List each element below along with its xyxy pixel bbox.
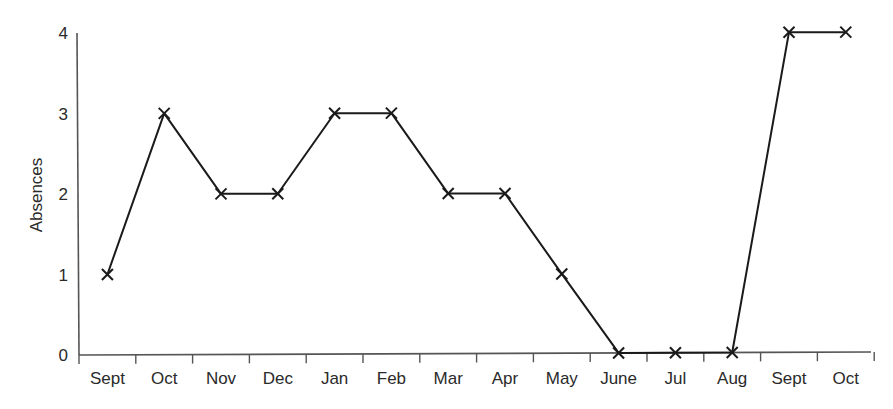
- x-tick-label: June: [600, 369, 637, 388]
- y-axis-line: [77, 33, 79, 355]
- x-tick-label: Sept: [772, 369, 807, 388]
- chart-svg: 01234 SeptOctNovDecJanFebMarAprMayJuneJu…: [0, 0, 893, 409]
- series-line: [107, 32, 845, 353]
- x-tick-label: Sept: [90, 369, 125, 388]
- absences-line-chart: 01234 SeptOctNovDecJanFebMarAprMayJuneJu…: [0, 0, 893, 409]
- x-tick-label: Aug: [717, 369, 747, 388]
- x-tick-labels: SeptOctNovDecJanFebMarAprMayJuneJulAugSe…: [90, 369, 859, 388]
- y-tick-label: 1: [59, 266, 68, 285]
- y-tick-label: 0: [59, 346, 68, 365]
- x-tick-label: Apr: [492, 369, 519, 388]
- y-tick-labels: 01234: [59, 24, 68, 365]
- y-axis-label: Absences: [27, 158, 46, 233]
- x-tick-label: Jan: [321, 369, 348, 388]
- x-axis-line: [79, 352, 871, 355]
- x-tick-label: Jul: [665, 369, 687, 388]
- x-tick-label: Nov: [206, 369, 237, 388]
- x-tick-label: Mar: [434, 369, 464, 388]
- y-tick-label: 2: [59, 185, 68, 204]
- x-marker-icon: [159, 108, 170, 119]
- x-tick-label: Dec: [263, 369, 294, 388]
- y-tick-label: 3: [59, 105, 68, 124]
- y-tick-label: 4: [59, 24, 68, 43]
- axes: [77, 33, 874, 364]
- x-tick-label: Feb: [377, 369, 406, 388]
- x-tick-label: Oct: [151, 369, 178, 388]
- x-tick-label: May: [546, 369, 579, 388]
- data-series: [102, 27, 851, 359]
- x-tick-label: Oct: [833, 369, 860, 388]
- x-marker-icon: [556, 268, 567, 279]
- x-marker-icon: [102, 269, 113, 280]
